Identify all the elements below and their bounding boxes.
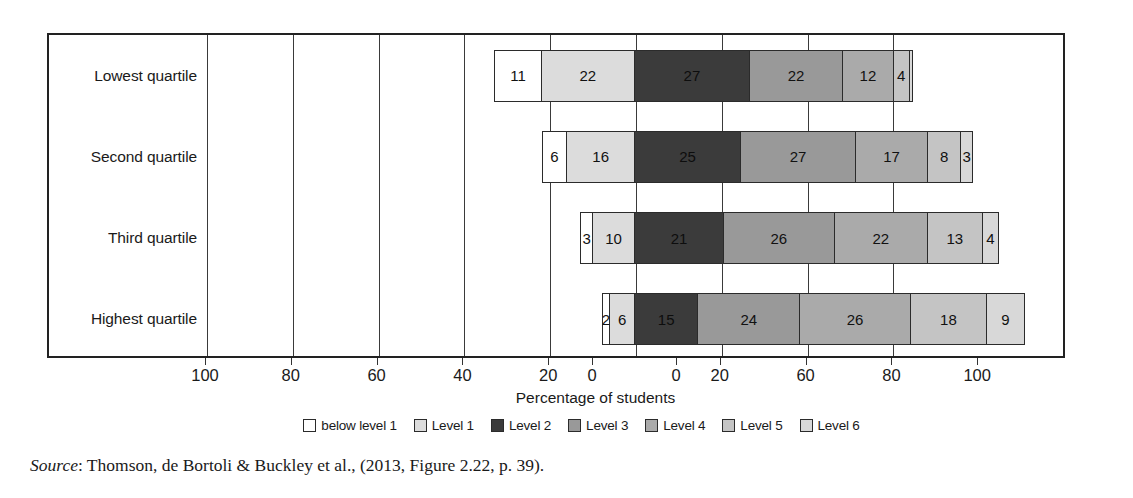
stacked-bar: 61625271783 bbox=[542, 131, 980, 183]
bar-segment-value: 8 bbox=[940, 149, 948, 164]
bar-segment-value: 2 bbox=[602, 312, 610, 327]
legend-label: Level 2 bbox=[509, 418, 551, 433]
bar-segment-value: 24 bbox=[740, 312, 757, 327]
x-axis-tick-label: 100 bbox=[191, 366, 219, 385]
bar-segment-value: 6 bbox=[618, 312, 626, 327]
category-label: Second quartile bbox=[49, 148, 207, 166]
x-axis-tick-label: 80 bbox=[282, 366, 300, 385]
bar-segment-value: 11 bbox=[510, 68, 526, 83]
x-axis: 1008060402000206080100 bbox=[47, 358, 1065, 368]
x-axis-tick-label: 80 bbox=[882, 366, 900, 385]
bar-segment: 6 bbox=[542, 131, 568, 183]
bar-segment: 3 bbox=[960, 131, 973, 183]
bar-segment-value: 4 bbox=[897, 68, 905, 83]
stacked-bar: 26152426189 bbox=[602, 293, 1031, 345]
legend-swatch bbox=[568, 419, 581, 432]
x-axis-tick-label: 0 bbox=[587, 366, 596, 385]
source-text: : Thomson, de Bortoli & Buckley et al., … bbox=[78, 455, 544, 475]
bar-segment-value: 17 bbox=[883, 149, 900, 164]
bar-segment: 8 bbox=[927, 131, 961, 183]
chart-row: Lowest quartile11222722124 bbox=[49, 35, 1063, 116]
x-axis-tick bbox=[977, 358, 978, 365]
bar-segment: 21 bbox=[634, 212, 724, 264]
bar-segment: 24 bbox=[697, 293, 800, 345]
x-axis-tick bbox=[806, 358, 807, 365]
bar-segment: 22 bbox=[541, 50, 635, 102]
stacked-bar: 11222722124 bbox=[494, 50, 919, 102]
stacked-bar: 310212622134 bbox=[580, 212, 1005, 264]
legend-swatch bbox=[414, 419, 427, 432]
legend-item[interactable]: Level 3 bbox=[568, 418, 628, 433]
x-axis-tick bbox=[462, 358, 463, 365]
legend-label: Level 6 bbox=[818, 418, 860, 433]
x-axis-tick bbox=[291, 358, 292, 365]
x-axis-tick-label: 100 bbox=[963, 366, 991, 385]
bar-segment: 25 bbox=[634, 131, 741, 183]
bar-segment: 16 bbox=[566, 131, 635, 183]
bar-segment-value: 6 bbox=[550, 149, 558, 164]
bar-segment-value: 18 bbox=[940, 312, 957, 327]
legend-swatch bbox=[303, 419, 316, 432]
legend-item[interactable]: Level 2 bbox=[491, 418, 551, 433]
bar-segment: 12 bbox=[842, 50, 893, 102]
legend-swatch bbox=[645, 419, 658, 432]
x-axis-tick bbox=[720, 358, 721, 365]
bar-segment: 27 bbox=[740, 131, 856, 183]
bar-segment-value: 21 bbox=[671, 231, 688, 246]
source-prefix: Source bbox=[30, 455, 78, 475]
x-axis-tick bbox=[676, 358, 677, 365]
bar-segment: 13 bbox=[927, 212, 983, 264]
bar-segment: 9 bbox=[986, 293, 1025, 345]
bar-segment: 22 bbox=[834, 212, 928, 264]
bar-segment-value: 26 bbox=[770, 231, 787, 246]
bar-segment-value: 27 bbox=[684, 68, 701, 83]
chart-row: Second quartile61625271783 bbox=[49, 116, 1063, 197]
bar-segment-value: 3 bbox=[582, 231, 590, 246]
bar-segment-value: 9 bbox=[1001, 312, 1009, 327]
category-label: Highest quartile bbox=[49, 310, 207, 328]
bar-segment: 27 bbox=[634, 50, 750, 102]
bar-segment-value: 16 bbox=[592, 149, 609, 164]
chart-plot-area: Lowest quartile11222722124Second quartil… bbox=[47, 33, 1065, 358]
legend-item[interactable]: Level 6 bbox=[800, 418, 860, 433]
bar-segment-value: 3 bbox=[963, 149, 971, 164]
x-axis-title: Percentage of students bbox=[0, 389, 1133, 407]
bar-segment-value: 27 bbox=[790, 149, 807, 164]
bar-segment: 10 bbox=[592, 212, 635, 264]
bar-segment-value: 25 bbox=[679, 149, 696, 164]
x-axis-tick-label: 20 bbox=[711, 366, 729, 385]
chart-row: Third quartile310212622134 bbox=[49, 198, 1063, 279]
bar-segment: 15 bbox=[634, 293, 698, 345]
chart-legend: below level 1Level 1Level 2Level 3Level … bbox=[0, 418, 1133, 433]
legend-swatch bbox=[491, 419, 504, 432]
bar-segment: 11 bbox=[494, 50, 541, 102]
legend-label: Level 3 bbox=[586, 418, 628, 433]
x-axis-tick bbox=[548, 358, 549, 365]
legend-item[interactable]: Level 1 bbox=[414, 418, 474, 433]
legend-label: Level 5 bbox=[740, 418, 782, 433]
legend-item[interactable]: Level 5 bbox=[722, 418, 782, 433]
bar-segment bbox=[909, 50, 913, 102]
bar-segment-value: 10 bbox=[605, 231, 622, 246]
x-axis-tick-label: 60 bbox=[367, 366, 385, 385]
chart-row: Highest quartile26152426189 bbox=[49, 279, 1063, 360]
legend-item[interactable]: below level 1 bbox=[303, 418, 396, 433]
legend-label: below level 1 bbox=[321, 418, 396, 433]
legend-label: Level 4 bbox=[663, 418, 705, 433]
x-axis-tick-label: 40 bbox=[453, 366, 471, 385]
bar-segment: 4 bbox=[982, 212, 999, 264]
bar-segment: 26 bbox=[723, 212, 835, 264]
x-axis-tick bbox=[205, 358, 206, 365]
category-label: Lowest quartile bbox=[49, 67, 207, 85]
legend-label: Level 1 bbox=[432, 418, 474, 433]
bar-segment-value: 4 bbox=[986, 231, 994, 246]
x-axis-tick bbox=[592, 358, 593, 365]
category-label: Third quartile bbox=[49, 229, 207, 247]
bar-segment-value: 13 bbox=[946, 231, 963, 246]
bar-segment-value: 22 bbox=[788, 68, 805, 83]
bar-segment-value: 15 bbox=[658, 312, 675, 327]
legend-item[interactable]: Level 4 bbox=[645, 418, 705, 433]
legend-swatch bbox=[722, 419, 735, 432]
x-axis-tick-label: 0 bbox=[671, 366, 680, 385]
source-note: Source: Thomson, de Bortoli & Buckley et… bbox=[30, 455, 544, 476]
